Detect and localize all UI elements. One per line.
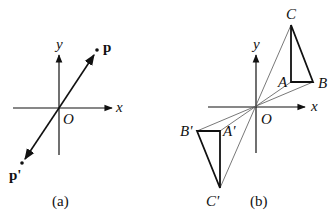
vertex-b-prime-label: B'	[180, 123, 193, 139]
origin-label: O	[63, 111, 74, 127]
point-p-label: p	[103, 39, 111, 55]
triangle-abc-prime	[197, 131, 220, 188]
caption-b: (b)	[250, 193, 268, 210]
panel-a: x y O p p' (a)	[9, 36, 123, 210]
panel-b: x y O C A B B' A' C' (b)	[180, 6, 327, 210]
origin-label: O	[261, 111, 272, 127]
caption-a: (a)	[52, 193, 69, 210]
x-axis-label: x	[310, 98, 318, 114]
reflection-diagram: x y O p p' (a) x y O C A B B' A' C' (b)	[0, 0, 336, 221]
point-p-prime	[20, 161, 24, 165]
y-axis-label: y	[251, 36, 260, 52]
vertex-b-label: B	[318, 75, 327, 91]
vector-p-prime	[25, 108, 59, 159]
vertex-a-prime-label: A'	[222, 123, 236, 139]
vertex-c-label: C	[286, 6, 297, 22]
vector-p	[59, 55, 94, 108]
triangle-abc	[291, 25, 313, 82]
y-axis-label: y	[54, 36, 63, 52]
point-p	[95, 48, 99, 52]
point-p-prime-label: p'	[9, 167, 22, 183]
x-axis-label: x	[115, 99, 123, 115]
vertex-c-prime-label: C'	[206, 193, 220, 209]
vertex-a-label: A	[277, 74, 288, 90]
